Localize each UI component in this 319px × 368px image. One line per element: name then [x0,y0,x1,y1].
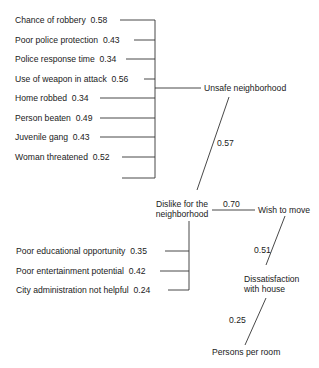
factor-loading: 0.34 [72,93,89,103]
factor-loading: 0.24 [134,285,151,295]
path-loading-dissatisfaction-to-wish: 0.51 [254,245,271,255]
factor-loading: 0.43 [73,132,90,142]
path-loading-persons-to-dissatisfaction: 0.25 [229,315,246,325]
node-label-line: with house [244,284,299,294]
factor-label: Person beaten [15,113,71,123]
factor-poor-entertainment-potential: Poor entertainment potential 0.42 [16,266,145,276]
node-persons-per-room: Persons per room [212,347,280,357]
factor-label: Use of weapon in attack [15,74,107,84]
factor-loading: 0.49 [76,113,93,123]
factor-loading: 0.35 [130,246,147,256]
factor-juvenile-gang: Juvenile gang 0.43 [15,132,90,142]
factor-chance-of-robbery: Chance of robbery 0.58 [15,15,107,25]
factor-woman-threatened: Woman threatened 0.52 [15,152,109,162]
factor-person-beaten: Person beaten 0.49 [15,113,92,123]
factor-poor-police-protection: Poor police protection 0.43 [15,35,120,45]
node-dislike-neighborhood: Dislike for the neighborhood [150,199,214,219]
path-loading-unsafe-to-dislike: 0.57 [217,138,234,148]
node-label-line: Dislike for the [150,199,214,209]
factor-use-of-weapon: Use of weapon in attack 0.56 [15,74,128,84]
path-loading-dislike-to-wish: 0.70 [223,199,240,209]
node-label-line: neighborhood [150,209,214,219]
factor-loading: 0.56 [112,74,129,84]
node-unsafe-neighborhood: Unsafe neighborhood [204,83,286,93]
factor-label: Woman threatened [15,152,88,162]
node-dissatisfaction-with-house: Dissatisfaction with house [244,274,299,294]
factor-home-robbed: Home robbed 0.34 [15,93,89,103]
node-wish-to-move: Wish to move [258,205,310,215]
factor-label: City administration not helpful [16,285,129,295]
factor-label: Poor police protection [15,35,98,45]
factor-loading: 0.42 [129,266,146,276]
factor-label: Juvenile gang [15,132,68,142]
factor-loading: 0.52 [93,152,110,162]
factor-label: Poor entertainment potential [16,266,124,276]
factor-loading: 0.34 [100,54,117,64]
factor-label: Police response time [15,54,95,64]
node-label-line: Dissatisfaction [244,274,299,284]
factor-city-administration: City administration not helpful 0.24 [16,285,150,295]
factor-label: Chance of robbery [15,15,86,25]
factor-police-response-time: Police response time 0.34 [15,54,116,64]
factor-label: Poor educational opportunity [16,246,125,256]
factor-label: Home robbed [15,93,67,103]
factor-poor-educational-opportunity: Poor educational opportunity 0.35 [16,246,147,256]
factor-loading: 0.58 [90,15,107,25]
factor-loading: 0.43 [103,35,120,45]
